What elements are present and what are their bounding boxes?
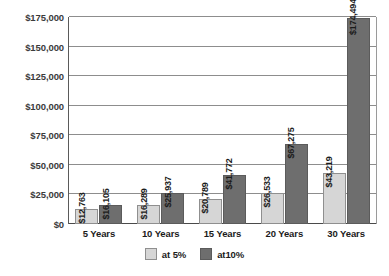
bar-value-label: $12,763 (77, 192, 87, 223)
bar-value-label: $26,533 (262, 176, 272, 207)
y-axis-tick-label: $75,000 (0, 130, 64, 141)
bar: $12,763 (75, 209, 98, 224)
legend-label: at 5% (162, 249, 186, 260)
bar-value-label: $67,275 (286, 128, 296, 159)
bar: $41,772 (223, 175, 246, 224)
y-axis-tick-label: $0 (0, 219, 64, 230)
bar: $16,289 (137, 205, 160, 224)
legend-item: at10% (200, 248, 244, 260)
bar-group: $12,763$16,105 (68, 17, 130, 224)
y-axis-tick-label: $175,000 (0, 12, 64, 23)
legend-item: at 5% (145, 248, 186, 260)
bar-group: $20,789$41,772 (192, 17, 254, 224)
bar: $16,105 (99, 205, 122, 224)
legend-label: at10% (217, 249, 244, 260)
y-axis-tick-label: $100,000 (0, 100, 64, 111)
y-axis-tick-label: $125,000 (0, 71, 64, 82)
bar: $67,275 (285, 144, 308, 224)
bar-chart: $0$25,000$50,000$75,000$100,000$125,000$… (0, 0, 389, 276)
x-axis: 5 Years10 Years15 Years20 Years30 Years (68, 228, 377, 244)
bar-group: $26,533$67,275 (253, 17, 315, 224)
bar-group: $43,219$174,494 (315, 17, 377, 224)
bar-value-label: $20,789 (200, 183, 210, 214)
bar-value-label: $41,772 (224, 158, 234, 189)
bar: $43,219 (323, 173, 346, 224)
legend-swatch-icon (145, 248, 157, 260)
bar-value-label: $174,494 (348, 0, 358, 35)
x-axis-category-label: 10 Years (130, 228, 192, 239)
x-axis-category-label: 15 Years (192, 228, 254, 239)
chart-legend: at 5%at10% (0, 248, 389, 260)
y-axis-tick-label: $25,000 (0, 189, 64, 200)
bar-group: $16,289$25,937 (130, 17, 192, 224)
y-axis-tick-label: $50,000 (0, 159, 64, 170)
y-axis-tick-label: $150,000 (0, 41, 64, 52)
bar-value-label: $25,937 (163, 177, 173, 208)
bar-value-label: $16,289 (139, 188, 149, 219)
bar: $26,533 (261, 193, 284, 224)
bars-layer: $12,763$16,105$16,289$25,937$20,789$41,7… (68, 17, 377, 224)
bar-value-label: $16,105 (101, 188, 111, 219)
bar: $20,789 (199, 199, 222, 224)
x-axis-category-label: 5 Years (68, 228, 130, 239)
bar: $25,937 (161, 193, 184, 224)
bar-value-label: $43,219 (324, 156, 334, 187)
bar: $174,494 (347, 18, 370, 224)
legend-swatch-icon (200, 248, 212, 260)
x-axis-category-label: 30 Years (315, 228, 377, 239)
y-axis: $0$25,000$50,000$75,000$100,000$125,000$… (0, 0, 64, 276)
x-axis-category-label: 20 Years (253, 228, 315, 239)
